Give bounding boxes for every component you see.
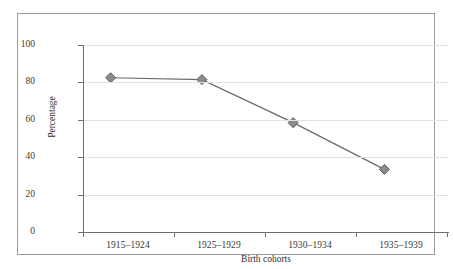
y-axis-tick-label-60: 60 (0, 115, 35, 125)
x-axis-tick-2 (265, 232, 266, 237)
gridline-80 (83, 82, 448, 83)
chart-frame: 100 80 60 40 20 0 1915–1924 1925–1929 19… (17, 13, 435, 255)
y-axis-tick-label-80: 80 (0, 77, 35, 87)
x-axis-category-label-1915-1924: 1915–1924 (82, 240, 174, 250)
y-axis-line (83, 45, 84, 233)
gridline-60 (83, 120, 448, 121)
plot-area (83, 45, 448, 232)
x-axis-category-label-1935-1939: 1935–1939 (355, 240, 447, 250)
y-axis-tick-20 (78, 195, 83, 196)
x-axis-tick-1 (174, 232, 175, 237)
x-axis-tick-3 (356, 232, 357, 237)
gridline-20 (83, 195, 448, 196)
x-axis-category-label-1930-1934: 1930–1934 (264, 240, 356, 250)
y-axis-tick-label-0: 0 (0, 227, 35, 237)
x-axis-tick-4 (447, 232, 448, 237)
y-axis-tick-40 (78, 157, 83, 158)
y-axis-tick-label-100: 100 (0, 40, 35, 50)
x-axis-line (83, 232, 449, 233)
y-axis-tick-label-20: 20 (0, 190, 35, 200)
figure: 100 80 60 40 20 0 1915–1924 1925–1929 19… (0, 0, 453, 269)
y-axis-title: Percentage (47, 72, 57, 162)
y-axis-tick-100 (78, 45, 83, 46)
y-axis-tick-60 (78, 120, 83, 121)
gridline-100 (83, 45, 448, 46)
x-axis-tick-0 (83, 232, 84, 237)
x-axis-category-label-1925-1929: 1925–1929 (173, 240, 265, 250)
x-axis-title: Birth cohorts (83, 254, 449, 264)
y-axis-tick-80 (78, 82, 83, 83)
y-axis-tick-label-40: 40 (0, 152, 35, 162)
gridline-40 (83, 157, 448, 158)
